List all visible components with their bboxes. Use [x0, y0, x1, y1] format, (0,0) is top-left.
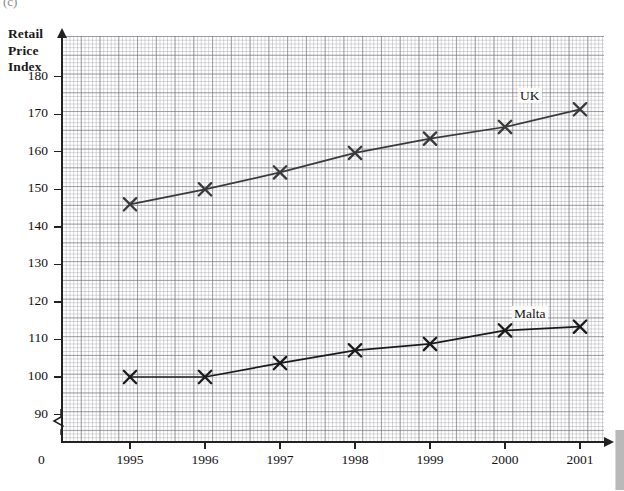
x-axis-tick: [579, 441, 580, 449]
x-axis-line: [61, 441, 606, 443]
origin-label: 0: [38, 452, 45, 468]
x-axis-tick: [429, 441, 430, 449]
x-axis-tick: [279, 441, 280, 449]
y-axis-tick-label: 180: [4, 69, 48, 83]
y-axis-tick: [54, 414, 62, 415]
y-axis-tick: [54, 189, 62, 190]
x-axis-tick-label: 1999: [400, 452, 460, 468]
x-axis-tick: [504, 441, 505, 449]
x-axis-arrow-icon: [604, 437, 614, 447]
y-axis-tick: [54, 151, 62, 152]
y-axis-line: [61, 36, 63, 442]
page-scrollbar[interactable]: [615, 430, 624, 490]
x-axis-tick: [129, 441, 130, 449]
page-corner-mark: (c): [3, 0, 21, 10]
x-axis-tick-label: 1995: [100, 452, 160, 468]
x-axis-tick: [204, 441, 205, 449]
y-axis-tick-label: 110: [4, 331, 48, 345]
y-axis-tick-label: 160: [4, 144, 48, 158]
y-axis-title-line-2: Price: [8, 43, 64, 60]
y-axis-arrow-icon: [57, 28, 67, 38]
y-axis-tick: [54, 376, 62, 377]
series-label-uk: UK: [518, 88, 542, 103]
x-axis-tick-label: 2001: [550, 452, 610, 468]
x-axis-tick-label: 1996: [175, 452, 235, 468]
x-axis-tick-label: 1997: [250, 452, 310, 468]
y-axis-tick: [54, 264, 62, 265]
y-axis-tick-label: 170: [4, 106, 48, 120]
chart-page: (c) Retail Price Index 0 180170160150140…: [0, 0, 624, 491]
y-axis-tick-label: 100: [4, 369, 48, 383]
x-axis-tick-label: 2000: [475, 452, 535, 468]
y-axis-tick-label: 150: [4, 181, 48, 195]
x-axis-tick: [354, 441, 355, 449]
y-axis-tick: [54, 339, 62, 340]
y-axis-tick: [54, 226, 62, 227]
y-axis-tick: [54, 76, 62, 77]
y-axis-tick-label: 120: [4, 294, 48, 308]
y-axis-tick-label: 90: [4, 407, 48, 421]
y-axis-tick: [54, 301, 62, 302]
x-axis-tick-label: 1998: [325, 452, 385, 468]
y-axis-tick-label: 130: [4, 256, 48, 270]
y-axis-tick: [54, 114, 62, 115]
series-label-malta: Malta: [512, 306, 548, 321]
y-axis-tick-label: 140: [4, 219, 48, 233]
